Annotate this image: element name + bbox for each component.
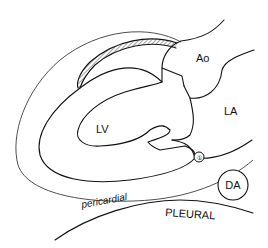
mitral-leaflet (172, 140, 195, 158)
septum-line (162, 68, 184, 86)
label-pericardial: pericardial (79, 191, 128, 210)
label-ao: Ao (196, 52, 209, 64)
aorta-outline (162, 20, 224, 82)
label-pleural: PLEURAL (165, 206, 216, 221)
pericardium-outer-line (16, 32, 253, 201)
myocardium-wall (39, 68, 195, 182)
label-lv: LV (96, 123, 109, 135)
label-la: LA (224, 105, 238, 117)
marker-label: ① (197, 155, 202, 161)
la-outline (172, 86, 193, 140)
heart-diagram: ① DA Ao LA LV pericardial PLEURAL (0, 0, 268, 248)
label-da: DA (225, 179, 241, 191)
